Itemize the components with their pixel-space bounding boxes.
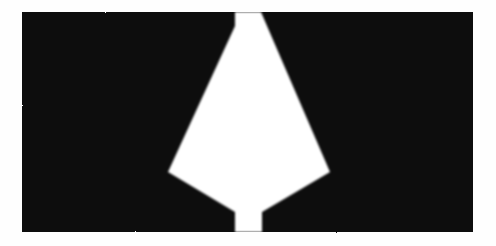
figure-canvas: High-contrast binary silhouette figure A… (0, 0, 496, 246)
binary-silhouette-figure (0, 0, 496, 246)
